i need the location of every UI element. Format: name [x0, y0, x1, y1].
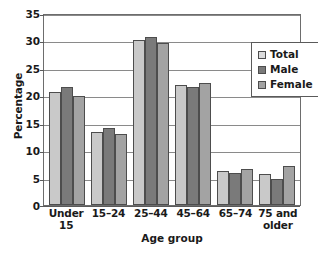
bar-male-2 [145, 37, 157, 205]
bar-chart-figure: Percentage 05101520253035 TotalMaleFemal… [0, 0, 318, 269]
bar-female-0 [73, 96, 85, 205]
bar-female-4 [241, 169, 253, 205]
legend-label: Female [270, 79, 313, 90]
x-tick-label-0: Under 15 [45, 208, 87, 231]
y-tick-label: 15 [14, 118, 40, 129]
bar-female-3 [199, 83, 211, 205]
x-axis-title: Age group [43, 232, 301, 244]
y-tick-label: 0 [14, 201, 40, 212]
bar-male-3 [187, 87, 199, 205]
legend-label: Male [270, 64, 298, 75]
legend-item-total: Total [258, 47, 313, 62]
legend-swatch-icon [258, 51, 266, 59]
bar-group [130, 15, 172, 205]
x-tick-label-line: older [257, 220, 299, 232]
bar-male-4 [229, 173, 241, 205]
bar-total-4 [217, 171, 229, 205]
bar-male-0 [61, 87, 73, 205]
y-tick-label: 10 [14, 146, 40, 157]
legend-swatch-icon [258, 81, 266, 89]
bar-total-2 [133, 40, 145, 205]
x-tick-label-line: 15–24 [87, 208, 129, 220]
x-tick-label-5: 75 andolder [257, 208, 299, 231]
y-tick-label: 35 [14, 9, 40, 20]
x-tick-label-line: 75 and [257, 208, 299, 220]
bar-group [172, 15, 214, 205]
bar-female-5 [283, 166, 295, 205]
x-tick-label-1: 15–24 [87, 208, 129, 231]
bar-female-2 [157, 43, 169, 205]
bar-group [214, 15, 256, 205]
chart-legend: TotalMaleFemale [251, 42, 318, 97]
x-tick-label-4: 65–74 [214, 208, 256, 231]
bar-male-1 [103, 128, 115, 205]
bar-total-3 [175, 85, 187, 205]
legend-item-male: Male [258, 62, 313, 77]
plot-area: TotalMaleFemale [43, 14, 301, 206]
x-tick-label-line: 25–44 [130, 208, 172, 220]
y-tick-label: 20 [14, 91, 40, 102]
bar-total-0 [49, 92, 61, 205]
y-tick-mark [40, 206, 44, 207]
bar-male-5 [271, 179, 283, 205]
y-tick-label: 5 [14, 173, 40, 184]
bar-total-5 [259, 174, 271, 205]
x-tick-label-2: 25–44 [130, 208, 172, 231]
x-tick-label-line: 45–64 [172, 208, 214, 220]
x-axis-tick-labels: Under 1515–2425–4445–6465–7475 andolder [43, 208, 301, 231]
bar-group [88, 15, 130, 205]
y-tick-label: 30 [14, 36, 40, 47]
x-tick-label-line: Under 15 [45, 208, 87, 231]
legend-item-female: Female [258, 77, 313, 92]
legend-swatch-icon [258, 66, 266, 74]
bar-total-1 [91, 132, 103, 205]
x-tick-label-3: 45–64 [172, 208, 214, 231]
bar-female-1 [115, 134, 127, 205]
legend-label: Total [270, 49, 299, 60]
y-tick-label: 25 [14, 64, 40, 75]
y-axis-tick-labels: 05101520253035 [14, 14, 40, 206]
x-tick-label-line: 65–74 [214, 208, 256, 220]
bar-group [46, 15, 88, 205]
